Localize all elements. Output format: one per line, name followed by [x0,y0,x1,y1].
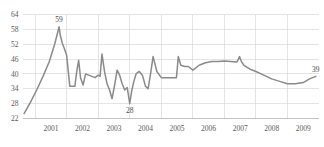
x-tick-label: 2006 [201,124,216,133]
y-tick-label: 22 [11,114,19,123]
data-point-label: 28 [126,106,134,115]
y-tick-label: 28 [11,99,19,108]
series-line [24,27,316,114]
y-tick-label: 46 [11,55,19,64]
data-point-label: 59 [55,15,63,24]
x-tick-label: 2007 [233,124,248,133]
data-point-label: 39 [312,65,320,74]
data-point-labels: 592839 [55,15,320,115]
x-axis-tick-labels: 200120022003200420052006200720082009 [43,124,311,133]
x-tick-label: 2003 [106,124,121,133]
x-tick-label: 2004 [138,124,153,133]
x-tick-label: 2009 [296,124,311,133]
x-tick-label: 2005 [170,124,185,133]
y-tick-label: 58 [11,25,19,34]
x-tick-label: 2001 [43,124,58,133]
x-gridlines [35,15,287,119]
x-tick-label: 2008 [264,124,279,133]
y-tick-label: 52 [11,40,19,49]
y-tick-label: 64 [11,10,19,19]
chart-container: 2228344046525864 20012002200320042005200… [0,0,324,147]
line-chart: 2228344046525864 20012002200320042005200… [0,0,324,147]
y-axis-tick-labels: 2228344046525864 [11,10,19,123]
y-tick-label: 34 [11,84,19,93]
x-tick-label: 2002 [75,124,90,133]
series-group [24,27,316,114]
y-tick-label: 40 [11,70,19,79]
